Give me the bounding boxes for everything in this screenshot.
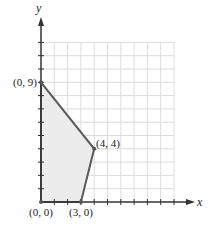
- x-axis-label: x: [196, 195, 203, 209]
- point-label-3-0: (3, 0): [69, 206, 93, 219]
- y-axis-arrow-icon: [38, 17, 44, 26]
- point-label-4-4: (4, 4): [96, 137, 120, 150]
- point-label-0-0: (0, 0): [29, 206, 53, 219]
- vertex-point: [39, 80, 43, 84]
- vertex-point: [39, 200, 43, 204]
- vertex-point: [79, 200, 83, 204]
- feasible-region-chart: y x (0, 9) (4, 4) (0, 0) (3, 0): [0, 0, 209, 225]
- point-label-0-9: (0, 9): [13, 76, 37, 89]
- x-axis-arrow-icon: [186, 199, 195, 205]
- y-axis-label: y: [35, 1, 42, 15]
